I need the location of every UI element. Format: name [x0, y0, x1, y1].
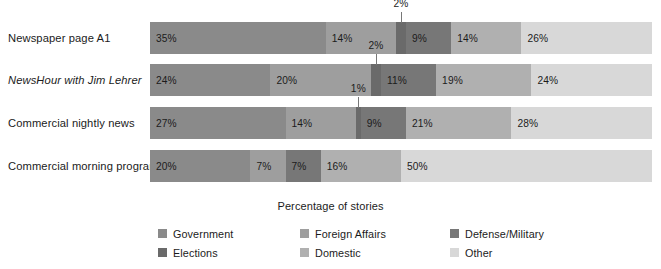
- segment-value-label: 24%: [150, 75, 177, 86]
- segment-value-label: 7%: [286, 161, 307, 172]
- bar-segment-domestic: 16%: [321, 150, 401, 182]
- bar-segment-other: 28%: [511, 107, 652, 139]
- bar-segment-foreign-affairs: 14%: [326, 22, 396, 54]
- legend-item[interactable]: Elections: [158, 243, 300, 262]
- bar-segment-government: 24%: [150, 64, 270, 96]
- stacked-bar: 24%20%2%11%19%24%: [150, 64, 652, 96]
- segment-value-label: 24%: [531, 75, 558, 86]
- segment-value-label: 50%: [401, 161, 428, 172]
- legend-label: Defense/Military: [465, 228, 544, 240]
- chart-row: Commercial morning program20%7%7%16%50%: [0, 150, 661, 182]
- bar-segment-other: 26%: [521, 22, 652, 54]
- legend-swatch-icon: [300, 229, 309, 238]
- chart-row: NewsHour with Jim Lehrer24%20%2%11%19%24…: [0, 64, 661, 96]
- callout-leader-line: [376, 54, 377, 65]
- legend-label: Foreign Affairs: [315, 228, 386, 240]
- callout-leader-line: [358, 97, 359, 108]
- segment-value-label: 16%: [321, 161, 348, 172]
- bar-segment-domestic: 14%: [451, 22, 521, 54]
- legend-label: Government: [173, 228, 233, 240]
- legend-item[interactable]: Government: [158, 224, 300, 243]
- segment-value-label: 11%: [381, 75, 407, 86]
- callout-leader-line: [401, 12, 402, 23]
- segment-value-label: 19%: [436, 75, 463, 86]
- legend-label: Other: [465, 247, 493, 259]
- chart-row: Newspaper page A135%14%2%9%14%26%: [0, 22, 661, 54]
- segment-value-label: 14%: [451, 33, 478, 44]
- segment-value-label: 21%: [406, 118, 433, 129]
- bar-segment-foreign-affairs: 14%: [286, 107, 356, 139]
- chart-row: Commercial nightly news27%14%1%9%21%28%: [0, 107, 661, 139]
- chart-legend: GovernmentElectionsForeign AffairsDomest…: [158, 224, 598, 262]
- bar-segment-other: 24%: [531, 64, 651, 96]
- bar-segment-domestic: 21%: [406, 107, 511, 139]
- bar-segment-government: 27%: [150, 107, 286, 139]
- segment-value-label: 26%: [521, 33, 548, 44]
- segment-value-label: 27%: [150, 118, 177, 129]
- x-axis-title: Percentage of stories: [0, 200, 661, 212]
- row-label: NewsHour with Jim Lehrer: [8, 64, 142, 96]
- legend-swatch-icon: [158, 248, 167, 257]
- bar-segment-defense-military: 9%: [361, 107, 406, 139]
- legend-swatch-icon: [300, 248, 309, 257]
- legend-swatch-icon: [450, 248, 459, 257]
- segment-value-label: 20%: [270, 75, 297, 86]
- segment-value-label: 7%: [250, 161, 271, 172]
- row-label: Commercial morning program: [8, 150, 142, 182]
- segment-value-label: 20%: [150, 161, 177, 172]
- callout-value-label: 2%: [368, 40, 383, 51]
- stacked-bar: 35%14%2%9%14%26%: [150, 22, 652, 54]
- segment-value-label: 35%: [150, 33, 177, 44]
- bar-segment-defense-military: 9%: [406, 22, 451, 54]
- legend-swatch-icon: [158, 229, 167, 238]
- bar-segment-elections: 2%: [371, 64, 381, 96]
- bar-segment-defense-military: 7%: [286, 150, 321, 182]
- legend-item[interactable]: Foreign Affairs: [300, 224, 450, 243]
- bar-segment-other: 50%: [401, 150, 652, 182]
- stacked-bar-chart: Newspaper page A135%14%2%9%14%26%NewsHou…: [0, 0, 661, 269]
- segment-value-label: 9%: [361, 118, 382, 129]
- bar-segment-foreign-affairs: 7%: [250, 150, 285, 182]
- bar-segment-government: 20%: [150, 150, 250, 182]
- row-label: Newspaper page A1: [8, 22, 142, 54]
- bar-segment-domestic: 19%: [436, 64, 531, 96]
- bar-segment-government: 35%: [150, 22, 326, 54]
- legend-swatch-icon: [450, 229, 459, 238]
- legend-item[interactable]: Other: [450, 243, 600, 262]
- legend-item[interactable]: Domestic: [300, 243, 450, 262]
- callout-value-label: 1%: [351, 83, 366, 94]
- segment-value-label: 9%: [406, 33, 427, 44]
- segment-value-label: 14%: [326, 33, 353, 44]
- bar-segment-defense-military: 11%: [381, 64, 436, 96]
- legend-label: Elections: [173, 247, 218, 259]
- legend-label: Domestic: [315, 247, 361, 259]
- stacked-bar: 20%7%7%16%50%: [150, 150, 652, 182]
- callout-value-label: 2%: [394, 0, 409, 9]
- segment-value-label: 28%: [511, 118, 538, 129]
- bar-segment-elections: 2%: [396, 22, 406, 54]
- legend-item[interactable]: Defense/Military: [450, 224, 600, 243]
- row-label: Commercial nightly news: [8, 107, 142, 139]
- stacked-bar: 27%14%1%9%21%28%: [150, 107, 652, 139]
- segment-value-label: 14%: [286, 118, 313, 129]
